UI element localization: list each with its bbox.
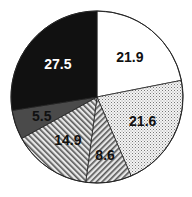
slice-label: 21.6 [129,113,156,129]
slice-label: 27.5 [44,56,71,72]
slice-label: 14.9 [54,132,81,148]
slice-label: 5.5 [32,108,52,124]
slice-label: 8.6 [95,147,115,163]
slice-label: 21.9 [116,49,143,65]
pie-chart: 21.921.68.614.95.527.5 [0,0,192,197]
